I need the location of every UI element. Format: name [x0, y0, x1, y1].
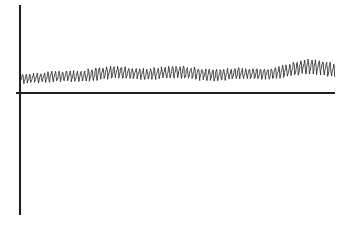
signal-waveform-line [20, 59, 335, 84]
plot-area [0, 0, 352, 225]
chart-figure [0, 0, 352, 225]
